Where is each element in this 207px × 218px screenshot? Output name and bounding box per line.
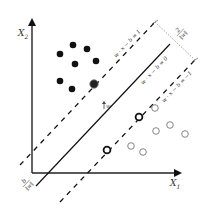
data-point-open [153,128,160,135]
data-point-filled [69,86,76,93]
x-axis-label: X1 [169,178,180,190]
data-point-open [128,143,135,150]
data-point-filled [57,78,64,85]
data-point-open [167,122,174,129]
data-point-filled [57,51,64,58]
lower-margin-label: w · x − b = −1 [160,70,192,104]
upper-margin-line [20,22,155,165]
separating-hyperplane [36,44,170,186]
data-point-filled [70,42,77,49]
svm-diagram: X2 X1 w · x − b = 0 w · x − b = 1 w · x … [0,0,207,218]
offset-annotation: b ‖w‖ [17,175,35,193]
data-point-filled [84,46,91,53]
normal-vector-label: w [106,103,111,109]
filled-class-points [57,42,100,93]
support-vector-open [136,114,143,121]
hyperplane-label: w · x − b = 0 [139,55,169,86]
support-vector-filled [90,80,98,88]
data-point-filled [72,61,79,68]
y-axis-label: X2 [17,28,28,40]
data-point-open [140,149,147,156]
normal-vector-annotation: w [102,101,111,109]
data-point-open [152,105,159,112]
support-vector-open [104,147,111,154]
data-point-filled [93,58,100,65]
data-point-open [182,131,189,138]
upper-margin-label: w · x − b = 1 [112,28,141,59]
